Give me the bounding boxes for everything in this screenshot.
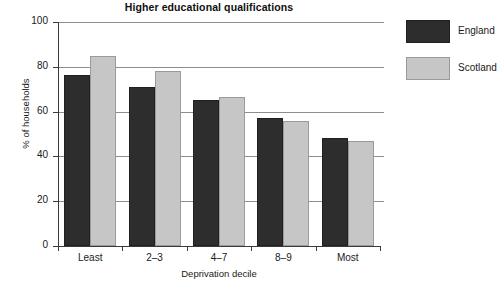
y-tick-label: 0 [18, 239, 48, 250]
y-tick-label: 80 [18, 60, 48, 71]
x-tick-label-2: 2–3 [125, 252, 185, 263]
y-tick-mark-60 [53, 112, 58, 113]
x-axis-title: Deprivation decile [58, 268, 380, 279]
legend-label-england: England [458, 25, 495, 36]
chart-figure: Higher educational qualifications % of h… [0, 0, 504, 285]
y-tick-label: 100 [18, 15, 48, 26]
bar-scotland-3 [219, 97, 245, 246]
x-tick-mark [58, 246, 59, 251]
legend-swatch-england [406, 20, 450, 43]
y-tick-mark-80 [53, 67, 58, 68]
bar-scotland-5 [348, 141, 374, 246]
y-tick-mark-100 [53, 22, 58, 23]
x-tick-mark [316, 246, 317, 251]
x-tick-mark [251, 246, 252, 251]
y-tick-label: 40 [18, 149, 48, 160]
bar-england-4 [257, 118, 283, 246]
x-tick-label-1: Least [60, 252, 120, 263]
legend-swatch-scotland [406, 57, 450, 80]
bar-scotland-2 [155, 71, 181, 246]
y-tick-label: 20 [18, 194, 48, 205]
bar-scotland-4 [283, 121, 309, 246]
bar-england-2 [129, 87, 155, 246]
bar-england-3 [193, 100, 219, 246]
x-tick-label-4: 8–9 [253, 252, 313, 263]
y-tick-mark-20 [53, 201, 58, 202]
x-tick-label-3: 4–7 [189, 252, 249, 263]
x-tick-mark [187, 246, 188, 251]
x-tick-label-5: Most [318, 252, 378, 263]
bar-scotland-1 [90, 56, 116, 246]
y-tick-mark-40 [53, 156, 58, 157]
legend-label-scotland: Scotland [458, 62, 497, 73]
bar-england-1 [64, 75, 90, 246]
y-tick-label: 60 [18, 105, 48, 116]
bar-england-5 [322, 138, 348, 246]
x-tick-mark [380, 246, 381, 251]
chart-title: Higher educational qualifications [34, 1, 384, 13]
bars-layer [58, 22, 380, 246]
x-tick-mark [122, 246, 123, 251]
